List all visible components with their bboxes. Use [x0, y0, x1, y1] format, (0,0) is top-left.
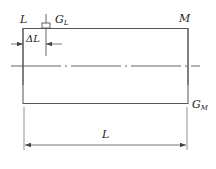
- label-delta-l: ΔL: [25, 33, 40, 44]
- label-m: M: [178, 12, 191, 25]
- diagram: L GL M ΔL GM L: [0, 0, 216, 169]
- gauge-l-box: [42, 23, 50, 28]
- label-l-top: L: [19, 13, 27, 26]
- label-length: L: [101, 128, 109, 141]
- label-gl: GL: [55, 13, 69, 27]
- label-gm: GM: [192, 98, 209, 112]
